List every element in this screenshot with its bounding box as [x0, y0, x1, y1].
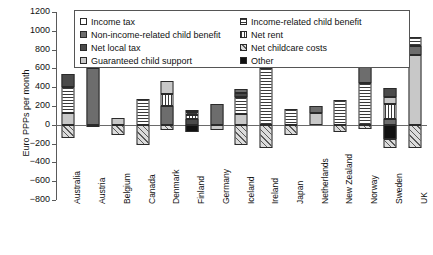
- legend-item[interactable]: Income-related child benefit: [240, 15, 362, 28]
- y-tick-label: 200: [35, 100, 50, 110]
- y-tick-label: 1000: [30, 25, 50, 35]
- legend-swatch-icon: [240, 57, 247, 64]
- bar-segment: [161, 94, 174, 106]
- legend-column-right: Income-related child benefitNet rentNet …: [240, 15, 362, 67]
- legend-swatch-icon: [240, 18, 247, 25]
- y-tick-label: −800: [30, 194, 50, 204]
- bar-segment: [62, 74, 75, 87]
- x-axis-label: Netherlands: [320, 158, 330, 204]
- bar-stack[interactable]: [408, 12, 421, 200]
- legend-item[interactable]: Other: [240, 54, 362, 67]
- y-tick-label: −400: [30, 156, 50, 166]
- x-axis-label: Austria: [97, 178, 107, 204]
- x-axis-label: Iceland: [246, 177, 256, 204]
- legend-item[interactable]: Guaranteed child support: [80, 54, 221, 67]
- bar-segment: [309, 113, 322, 125]
- bar-segment: [62, 113, 75, 125]
- legend-label: Income-related child benefit: [251, 17, 362, 27]
- bar-segment: [383, 139, 396, 148]
- bar-segment: [136, 99, 149, 124]
- legend-label: Other: [251, 56, 274, 66]
- bar-segment: [235, 125, 248, 145]
- bar-segment: [235, 93, 248, 97]
- bar-segment: [210, 104, 223, 125]
- legend-column-left: Income taxNon-income-related child benef…: [80, 15, 221, 67]
- legend-swatch-icon: [80, 57, 87, 64]
- legend-label: Net local tax: [91, 43, 141, 53]
- legend-swatch-icon: [80, 31, 87, 38]
- bar-segment: [186, 125, 199, 133]
- legend-item[interactable]: Net local tax: [80, 41, 221, 54]
- y-tick-mark: [52, 200, 56, 201]
- x-axis-label: Sweden: [394, 173, 404, 204]
- chart-legend: Income taxNon-income-related child benef…: [74, 10, 410, 68]
- y-tick-label: −600: [30, 175, 50, 185]
- bar-segment: [383, 97, 396, 105]
- stacked-bar-chart: Euro PPPs per month 12001000800600400200…: [0, 0, 433, 255]
- bar-segment: [161, 81, 174, 94]
- bar-segment: [408, 37, 421, 46]
- legend-swatch-icon: [240, 31, 247, 38]
- bar-segment: [235, 114, 248, 124]
- bar-segment: [359, 83, 372, 124]
- bar-segment: [87, 68, 100, 124]
- bar-segment: [210, 125, 223, 131]
- legend-label: Net rent: [251, 30, 283, 40]
- x-axis-label: Norway: [369, 175, 379, 204]
- x-axis-label: Australia: [72, 171, 82, 204]
- bar-segment: [87, 125, 100, 127]
- bar-segment: [359, 67, 372, 84]
- bar-segment: [136, 125, 149, 145]
- legend-swatch-icon: [240, 44, 247, 51]
- bar-segment: [235, 89, 248, 93]
- bar-segment: [260, 125, 273, 149]
- legend-item[interactable]: Non-income-related child benefit: [80, 28, 221, 41]
- legend-item[interactable]: Net childcare costs: [240, 41, 362, 54]
- x-axis-label: Ireland: [270, 178, 280, 204]
- legend-swatch-icon: [80, 44, 87, 51]
- bar-segment: [309, 106, 322, 113]
- x-axis-label: Japan: [295, 181, 305, 204]
- bar-segment: [186, 115, 199, 119]
- y-tick-label: 600: [35, 62, 50, 72]
- bar-segment: [111, 118, 124, 125]
- legend-label: Income tax: [91, 17, 135, 27]
- y-tick-label: 0: [45, 119, 50, 129]
- legend-item[interactable]: Net rent: [240, 28, 362, 41]
- x-axis-label: Germany: [221, 169, 231, 204]
- bar-segment: [161, 106, 174, 125]
- bar-segment: [383, 125, 396, 139]
- bar-segment: [334, 125, 347, 132]
- y-tick-label: 1200: [30, 6, 50, 16]
- bar-segment: [284, 125, 297, 135]
- x-axis-label: Canada: [147, 174, 157, 204]
- x-axis-label: Denmark: [171, 170, 181, 204]
- bar-segment: [284, 109, 297, 125]
- bar-segment: [62, 87, 75, 112]
- bar-segment: [383, 104, 396, 119]
- bar-segment: [383, 88, 396, 96]
- bar-segment: [408, 55, 421, 125]
- bar-segment: [111, 125, 124, 135]
- x-axis-label: UK: [419, 192, 429, 204]
- bar-segment: [161, 125, 174, 130]
- bar-segment: [359, 125, 372, 129]
- legend-swatch-icon: [80, 18, 87, 25]
- x-axis-label: New Zealand: [344, 154, 354, 204]
- y-tick-label: 800: [35, 44, 50, 54]
- legend-item[interactable]: Income tax: [80, 15, 221, 28]
- bar-segment: [408, 125, 421, 149]
- bar-segment: [62, 125, 75, 138]
- bar-segment: [186, 112, 199, 115]
- y-tick-label: −200: [30, 138, 50, 148]
- legend-label: Guaranteed child support: [91, 56, 192, 66]
- legend-label: Non-income-related child benefit: [91, 30, 221, 40]
- bar-segment: [334, 100, 347, 124]
- x-axis-label: Finland: [196, 176, 206, 204]
- y-tick-label: 400: [35, 81, 50, 91]
- bar-segment: [186, 110, 199, 112]
- bar-segment: [408, 46, 421, 55]
- bar-segment: [235, 97, 248, 115]
- bar-segment: [260, 68, 273, 124]
- legend-label: Net childcare costs: [251, 43, 327, 53]
